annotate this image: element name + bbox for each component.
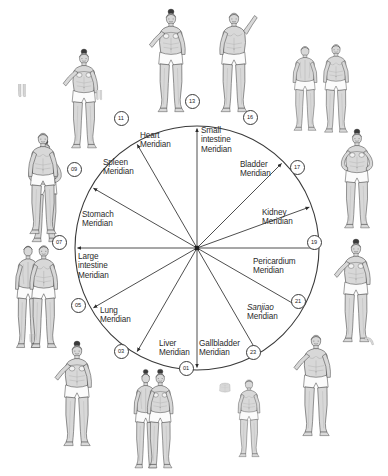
meridian-label-line: Sanjiao	[247, 303, 274, 312]
meridian-label-heart: Heart Meridian	[140, 131, 171, 150]
node-09[interactable]: 09	[67, 162, 82, 177]
node-11[interactable]: 11	[114, 111, 129, 126]
node-07[interactable]: 07	[52, 235, 67, 250]
node-03[interactable]: 03	[114, 344, 129, 359]
meridian-label-liver: Liver Meridian	[159, 339, 190, 358]
meridian-label-pericardium: Pericardium Meridian	[253, 257, 296, 276]
meridian-label-kidney: Kidney Meridian	[262, 208, 293, 227]
node-23[interactable]: 23	[246, 345, 261, 360]
meridian-label-sanjiao: SanjiaoMeridian	[247, 303, 278, 322]
meridian-label-large-intestine: Large intestine Meridian	[78, 252, 109, 280]
meridian-label-gallbladder: Gallbladder Meridian	[199, 339, 240, 358]
diagram-canvas: Heart MeridianSmall intestine MeridianBl…	[0, 0, 388, 476]
meridian-label-stomach: Stomach Meridian	[82, 210, 114, 229]
node-05[interactable]: 05	[71, 298, 86, 313]
meridian-label-small-intestine: Small intestine Meridian	[201, 126, 232, 154]
node-01[interactable]: 01	[179, 361, 194, 376]
node-19[interactable]: 19	[307, 235, 322, 250]
wheel-center-hub	[195, 246, 199, 250]
node-21[interactable]: 21	[291, 294, 306, 309]
spoke-03	[137, 248, 197, 351]
node-17[interactable]: 17	[290, 160, 305, 175]
spoke-05	[94, 248, 197, 308]
meridian-label-spleen: Spleen Meridian	[103, 158, 134, 177]
spoke-11	[137, 145, 197, 248]
node-13[interactable]: 13	[185, 94, 200, 109]
meridian-label-bladder: Bladder Meridian	[240, 160, 271, 179]
node-16[interactable]: 16	[243, 110, 258, 125]
spoke-23	[197, 248, 257, 351]
meridian-label-line: Meridian	[247, 312, 278, 321]
meridian-label-lung: Lung Meridian	[100, 306, 131, 325]
